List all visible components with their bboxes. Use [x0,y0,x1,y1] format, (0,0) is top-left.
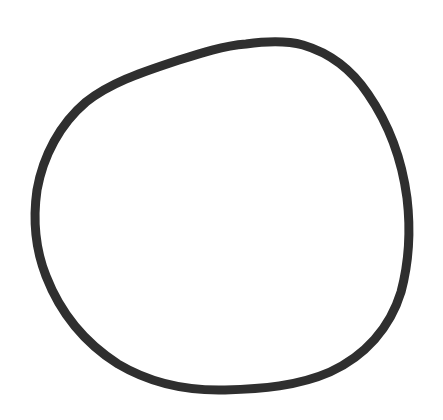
background [0,0,443,420]
drawing-canvas: Hand-drawn circle [0,0,443,420]
circle-drawing [0,0,443,420]
